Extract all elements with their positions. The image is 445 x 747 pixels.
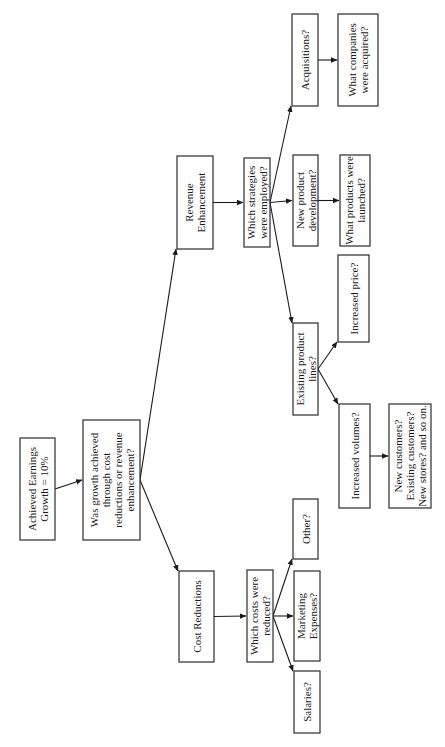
node-label-line: lines? [306,356,318,382]
node-label: Other? [300,514,312,544]
node-label-line: Revenue [183,183,195,222]
node-epl: Existing productlines? [293,323,318,415]
node-label: Achieved EarningsGrowth = 10% [26,447,50,531]
node-q1: Was growth achievedthrough costreduction… [83,420,140,540]
node-label-line: through cost [100,453,112,508]
node-label-line: New stores? and so on. [416,405,428,507]
node-label-line: were employed? [257,166,269,238]
node-label: Increased volumes? [349,412,361,499]
node-label-line: Other? [300,514,312,544]
node-price: Increased price? [338,255,369,342]
node-label-line: Growth = 10% [38,456,50,521]
node-rev: RevenueEnhancement [177,156,213,249]
node-label-line: development? [306,170,318,232]
arrow-epl-to-vol [318,369,338,404]
node-other: Other? [293,499,318,559]
node-label-line: Cost Reductions [191,580,203,652]
node-wca: What companieswere acquired? [338,14,378,106]
arrow-strat-to-epl [270,203,292,324]
diagram-canvas: Achieved EarningsGrowth = 10%Was growth … [0,0,445,747]
edges-layer [55,60,388,671]
node-npd: New productdevelopment? [293,155,318,246]
node-label-line: Salaries? [301,682,313,722]
node-label: MarketingExpenses? [295,593,319,640]
node-label-line: Which strategies [245,166,257,240]
node-label-line: Increased volumes? [349,412,361,499]
node-label-line: Was growth achieved [88,432,100,527]
arrow-strat-to-acq [270,106,291,203]
node-label-line: Existing customers? [404,411,416,500]
node-cost: Cost Reductions [179,571,214,662]
node-costs_q: Which costs werereduced? [247,570,273,662]
node-label-line: Which costs were [248,577,260,655]
node-label: New customers?Existing customers?New sto… [392,405,428,507]
node-mkt: MarketingExpenses? [294,571,320,661]
node-label-line: New customers? [392,419,404,492]
arrow-root-to-q1 [55,480,82,489]
node-root: Achieved EarningsGrowth = 10% [20,438,55,540]
arrow-q1-to-rev [140,249,176,480]
node-label-line: Achieved Earnings [26,447,38,531]
node-vol: Increased volumes? [339,404,370,508]
node-label: Cost Reductions [191,580,203,652]
arrow-q1-to-cost [140,480,178,571]
node-label-line: Existing product [294,332,306,405]
node-label-line: Acquisitions? [299,30,311,91]
node-label: What companieswere acquired? [346,23,370,97]
node-wpl: What products werelaunched? [340,155,370,246]
node-label-line: launched? [355,178,367,223]
node-label: Increased price? [348,263,360,335]
node-label-line: Expenses? [307,593,319,640]
node-label-line: What companies [346,23,358,97]
node-label-line: New product [294,172,306,229]
node-label: Salaries? [301,682,313,722]
node-label-line: Enhancement [195,173,207,233]
node-label: Acquisitions? [299,30,311,91]
node-label: Which strategieswere employed? [245,166,269,240]
arrow-costs_q-to-sal [273,616,293,671]
node-sal: Salaries? [294,671,320,733]
node-acq: Acquisitions? [292,14,318,106]
node-label-line: were acquired? [358,26,370,93]
nodes-layer: Achieved EarningsGrowth = 10%Was growth … [20,14,431,733]
arrow-epl-to-price [318,342,337,369]
node-label-line: Increased price? [348,263,360,335]
node-label-line: What products were [343,156,355,245]
node-label-line: reductions or revenue [112,432,124,527]
arrow-strat-to-npd [270,201,292,203]
arrow-costs_q-to-other [273,559,292,616]
arrow-cost-to-costs_q [214,616,246,617]
node-cust: New customers?Existing customers?New sto… [389,404,431,508]
node-label-line: reduced? [260,596,272,636]
node-strat: Which strategieswere employed? [244,158,270,247]
node-label-line: Marketing [295,593,307,639]
node-label-line: enhancement? [124,448,136,511]
node-label: New productdevelopment? [294,170,318,232]
